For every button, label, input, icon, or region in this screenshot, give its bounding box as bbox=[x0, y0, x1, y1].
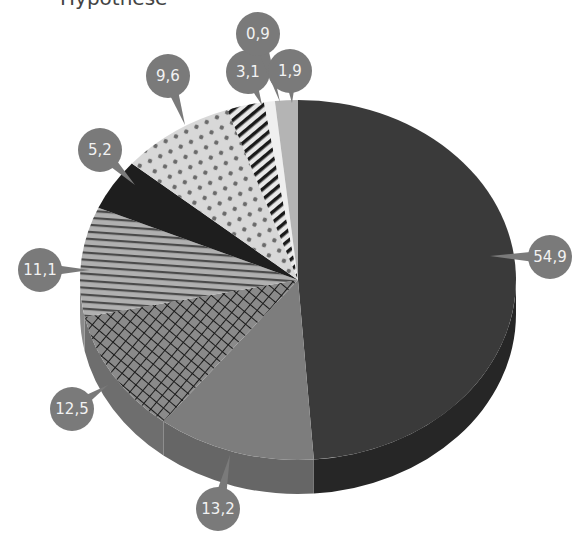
pie-value-text: 13,2 bbox=[201, 500, 234, 518]
chart-title-cropped: Hypothese bbox=[60, 0, 167, 10]
pie-value-text: 3,1 bbox=[236, 63, 260, 81]
pie-value-label: 9,6 bbox=[146, 54, 190, 125]
pie-value-label: 12,5 bbox=[50, 385, 108, 431]
pie-value-label: 5,2 bbox=[78, 128, 135, 185]
pie-value-text: 12,5 bbox=[55, 400, 88, 418]
pie-value-text: 5,2 bbox=[88, 141, 112, 159]
pie-chart-svg: 54,913,212,511,15,29,63,10,91,9 bbox=[0, 0, 588, 548]
pie-value-text: 1,9 bbox=[278, 62, 302, 80]
pie-value-text: 0,9 bbox=[246, 25, 270, 43]
pie-value-text: 9,6 bbox=[156, 67, 180, 85]
pie-chart: Hypothese 54,913,212,511,15,29,63,10 bbox=[0, 0, 588, 548]
pie-value-label: 1,9 bbox=[268, 49, 312, 103]
pie-value-label: 11,1 bbox=[18, 248, 90, 292]
pie-value-text: 11,1 bbox=[23, 261, 56, 279]
pie-slices bbox=[80, 100, 516, 460]
pie-value-text: 54,9 bbox=[533, 248, 566, 266]
